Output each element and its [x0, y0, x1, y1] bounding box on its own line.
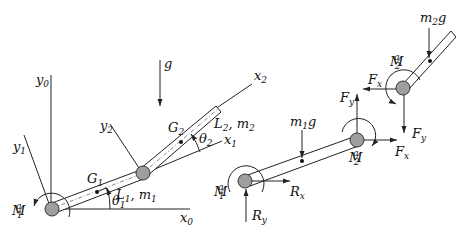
- y2-axis: [110, 124, 143, 174]
- label-m1a-left: Ma1: [11, 201, 26, 220]
- label-fx-lower: Fx: [394, 144, 409, 161]
- fbd-joint-base: [238, 174, 252, 188]
- label-theta2: θ2: [199, 131, 213, 148]
- label-m2a-upper: Ma2: [389, 52, 404, 71]
- joint-1: [136, 166, 150, 180]
- label-l2-m2: L2, m2: [213, 116, 255, 133]
- fbd-joint-middle: [350, 133, 364, 147]
- fbd-com-2: [428, 59, 432, 63]
- label-fy-upper: Fy: [411, 126, 427, 143]
- label-y2: y2: [99, 118, 113, 135]
- two-link-arm-diagram: y0 x0 y1 x1 y2 x2 g G1 G2 L1, m1 L2, m2 …: [0, 0, 472, 241]
- left-panel-arm: y0 x0 y1 x1 y2 x2 g G1 G2 L1, m1 L2, m2 …: [11, 56, 267, 227]
- joint-0: [45, 202, 59, 216]
- label-m2a-lower: Ma2: [348, 148, 363, 167]
- x2-axis: [218, 84, 252, 107]
- label-fx-upper: Fx: [367, 72, 382, 89]
- label-fy-lower: Fy: [339, 90, 355, 107]
- label-g1: G1: [87, 171, 103, 188]
- label-x2: x2: [254, 68, 267, 85]
- label-x1: x1: [224, 132, 237, 149]
- label-m1a-right: Ma1: [213, 182, 228, 201]
- right-panel-free-body: m1g m2g Ma1 Rx Ry Ma2 Fy Fx Ma2 Fx Fy: [213, 10, 456, 225]
- fbd-com-1: [300, 159, 304, 163]
- fbd-joint-upper: [396, 81, 410, 95]
- y1-axis: [24, 135, 51, 209]
- label-m1g: m1g: [290, 114, 316, 131]
- label-x0: x0: [180, 210, 193, 227]
- label-m2g: m2g: [420, 10, 446, 27]
- label-ry: Ry: [251, 208, 268, 225]
- label-y0: y0: [35, 72, 49, 89]
- label-gravity: g: [164, 56, 172, 71]
- center-of-mass-g2: [179, 140, 183, 144]
- label-g2: G2: [168, 120, 184, 137]
- label-rx: Rx: [289, 184, 305, 201]
- label-y1: y1: [12, 139, 26, 156]
